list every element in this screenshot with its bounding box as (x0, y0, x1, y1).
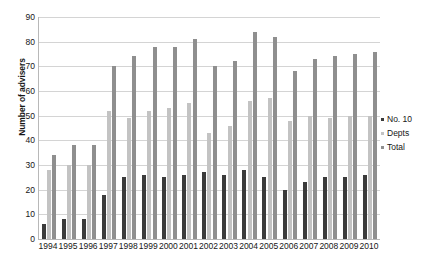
bar (288, 121, 292, 239)
bar (167, 108, 171, 239)
bar (87, 165, 91, 239)
bar (72, 145, 76, 239)
legend-item-label: Total (387, 142, 405, 152)
x-axis-tick-label: 2000 (159, 241, 178, 251)
bar (273, 37, 277, 239)
bars-layer (39, 17, 380, 239)
legend-item[interactable]: No. 10 (381, 113, 421, 125)
y-axis-tick-label: 20 (26, 185, 35, 195)
x-axis-tick-label: 1999 (139, 241, 158, 251)
bar (193, 39, 197, 239)
x-axis-tick-label: 2004 (239, 241, 258, 251)
x-axis-tick-label: 2009 (339, 241, 358, 251)
x-axis-tick-label: 2008 (319, 241, 338, 251)
x-axis-tick-label: 2001 (179, 241, 198, 251)
bar-group (303, 17, 317, 239)
bar-group (262, 17, 276, 239)
x-axis-ticks: 1994199519961997199819992000200120022003… (38, 241, 379, 257)
bar (283, 190, 287, 239)
legend-item[interactable]: Depts (381, 127, 421, 139)
legend-item-label: Depts (387, 128, 409, 138)
bar (308, 116, 312, 239)
legend-swatch-depts-icon (381, 132, 384, 135)
bar (228, 126, 232, 239)
bar (122, 177, 126, 239)
bar (132, 56, 136, 239)
x-axis-tick-label: 2002 (199, 241, 218, 251)
bar (333, 56, 337, 239)
y-axis-tick-label: 50 (26, 111, 35, 121)
bar (42, 224, 46, 239)
bar (323, 177, 327, 239)
y-axis-title: Number of advisers (17, 27, 27, 167)
bar (262, 177, 266, 239)
bar (313, 59, 317, 239)
bar (147, 111, 151, 239)
bar-group (242, 17, 256, 239)
bar-chart: Number of advisers 0102030405060708090 1… (0, 0, 422, 276)
y-axis-tick-label: 40 (26, 135, 35, 145)
bar (373, 52, 377, 239)
bar (142, 175, 146, 239)
bar (242, 170, 246, 239)
legend-item[interactable]: Total (381, 141, 421, 153)
x-axis-tick-label: 2010 (360, 241, 379, 251)
bar-group (82, 17, 96, 239)
bar (368, 116, 372, 239)
bar-group (343, 17, 357, 239)
legend-item-label: No. 10 (387, 114, 412, 124)
bar (248, 101, 252, 239)
bar-group (202, 17, 216, 239)
x-axis-tick-label: 1996 (79, 241, 98, 251)
bar (173, 47, 177, 239)
plot-area: 0102030405060708090 (38, 17, 380, 240)
bar (222, 175, 226, 239)
bar-group (42, 17, 56, 239)
x-axis-tick-label: 2007 (299, 241, 318, 251)
bar (303, 182, 307, 239)
bar (107, 111, 111, 239)
x-axis-tick-label: 2005 (259, 241, 278, 251)
bar (153, 47, 157, 239)
bar (268, 98, 272, 239)
bar (363, 175, 367, 239)
bar (82, 219, 86, 239)
y-axis-tick-label: 60 (26, 86, 35, 96)
bar (162, 177, 166, 239)
bar (213, 66, 217, 239)
bar (207, 133, 211, 239)
bar (233, 61, 237, 239)
bar (92, 145, 96, 239)
bar (112, 66, 116, 239)
x-axis-tick-label: 1995 (59, 241, 78, 251)
y-axis-tick-label: 30 (26, 160, 35, 170)
bar (67, 165, 71, 239)
x-axis-tick-label: 1997 (99, 241, 118, 251)
bar (293, 71, 297, 239)
bar (182, 175, 186, 239)
x-axis-tick-label: 1994 (39, 241, 58, 251)
y-axis-tick-label: 80 (26, 37, 35, 47)
bar-group (222, 17, 236, 239)
bar (343, 177, 347, 239)
bar (52, 155, 56, 239)
legend-swatch-total-icon (381, 146, 384, 149)
bar-group (142, 17, 156, 239)
bar-group (182, 17, 196, 239)
bar (353, 54, 357, 239)
y-axis-tick-label: 70 (26, 61, 35, 71)
legend-swatch-no10-icon (381, 118, 384, 121)
x-axis-tick-label: 1998 (119, 241, 138, 251)
bar-group (62, 17, 76, 239)
bar-group (162, 17, 176, 239)
y-axis-tick-label: 90 (26, 12, 35, 22)
bar (328, 118, 332, 239)
bar (202, 172, 206, 239)
bar (127, 118, 131, 239)
y-axis-tick-label: 0 (30, 234, 35, 244)
bar-group (363, 17, 377, 239)
x-axis-tick-label: 2006 (279, 241, 298, 251)
y-axis-tick-label: 10 (26, 209, 35, 219)
bar (102, 195, 106, 239)
bar (253, 32, 257, 239)
